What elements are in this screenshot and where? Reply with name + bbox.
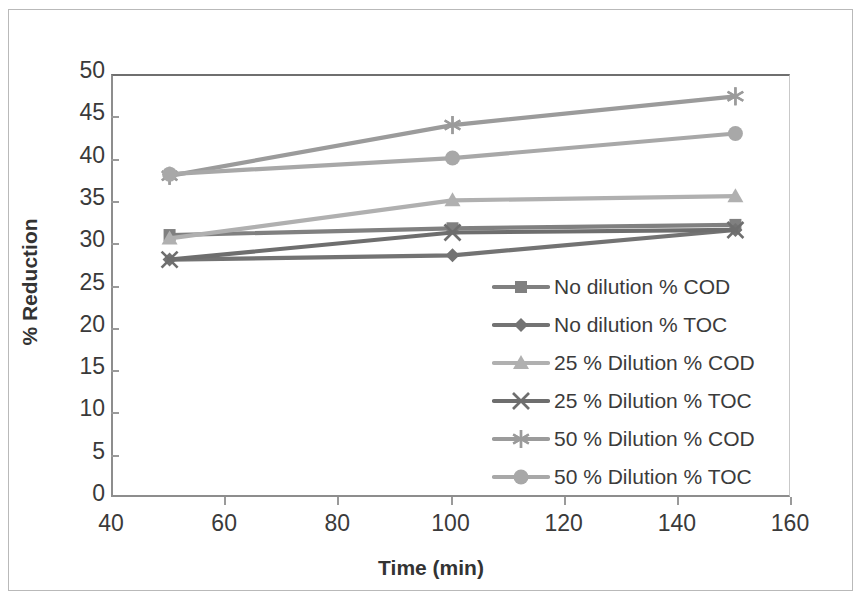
y-tick-label: 45 [63,101,105,124]
y-tick-mark [111,412,119,414]
y-tick-mark [111,370,119,372]
x-tick-mark [790,497,792,505]
legend-marker-icon [492,390,550,412]
y-axis-tick-labels: 05101520253035404550 [50,0,105,600]
x-tick-label: 120 [524,512,604,535]
data-point-marker [728,126,743,141]
legend-label: 25 % Dilution % COD [550,351,755,375]
x-tick-mark [451,497,453,505]
legend-label: No dilution % TOC [550,313,727,337]
legend-marker-icon [492,352,550,374]
y-tick-label: 20 [63,313,105,336]
y-tick-label: 30 [63,228,105,251]
legend-label: No dilution % COD [550,275,730,299]
x-tick-label: 140 [637,512,717,535]
y-tick-label: 0 [63,482,105,505]
y-tick-mark [111,455,119,457]
y-tick-label: 15 [63,355,105,378]
y-tick-label: 40 [63,144,105,167]
data-point-marker [162,167,177,182]
x-tick-mark [564,497,566,505]
y-tick-label: 10 [63,397,105,420]
data-point-marker [446,248,460,262]
y-tick-mark [111,159,119,161]
legend-label: 50 % Dilution % TOC [550,465,752,489]
x-tick-mark [224,497,226,505]
x-tick-label: 80 [297,512,377,535]
y-axis-title: % Reduction [18,192,42,372]
legend-item[interactable]: 50 % Dilution % COD [492,420,782,458]
x-tick-label: 60 [184,512,264,535]
y-tick-label: 25 [63,271,105,294]
y-tick-mark [111,328,119,330]
x-tick-mark [337,497,339,505]
legend-marker-icon [492,314,550,336]
legend-marker-icon [492,276,550,298]
legend-marker-icon [492,428,550,450]
legend-item[interactable]: No dilution % COD [492,268,782,306]
x-tick-label: 160 [750,512,830,535]
y-tick-label: 50 [63,59,105,82]
x-tick-mark [677,497,679,505]
y-tick-mark [111,243,119,245]
legend-marker-icon [492,466,550,488]
legend-label: 25 % Dilution % TOC [550,389,752,413]
y-tick-mark [111,201,119,203]
legend-item[interactable]: 25 % Dilution % COD [492,344,782,382]
legend-label: 50 % Dilution % COD [550,427,755,451]
chart-figure: 05101520253035404550 % Reduction Time (m… [0,0,862,600]
x-tick-label: 40 [71,512,151,535]
y-tick-label: 35 [63,186,105,209]
y-tick-label: 5 [63,440,105,463]
y-tick-mark [111,116,119,118]
x-tick-label: 100 [411,512,491,535]
data-point-marker [445,151,460,166]
x-axis-title: Time (min) [0,556,862,580]
legend-item[interactable]: 50 % Dilution % TOC [492,458,782,496]
y-tick-mark [111,286,119,288]
legend-item[interactable]: 25 % Dilution % TOC [492,382,782,420]
legend-item[interactable]: No dilution % TOC [492,306,782,344]
legend: No dilution % CODNo dilution % TOC25 % D… [492,268,782,496]
